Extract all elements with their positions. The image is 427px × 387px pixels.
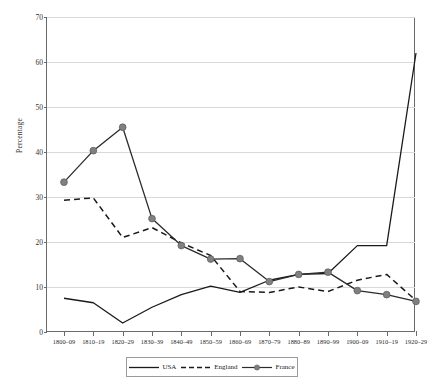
x-axis-tick-label: 1860–69 [229,338,251,345]
x-axis-tick-label: 1830–39 [141,338,163,345]
legend-swatch-england [181,363,211,372]
data-point-france [325,269,332,276]
y-axis-tick-label: 50 [36,103,44,112]
y-axis-tick-label: 30 [36,193,44,202]
x-axis-tick-label: 1900–09 [346,338,368,345]
y-axis-tick-label: 0 [39,328,43,337]
x-axis-tick-label: 1880–89 [287,338,309,345]
legend-item-france[interactable]: France [242,363,294,372]
legend-swatch-france [242,363,272,372]
data-point-france [266,278,273,285]
x-axis-tick-label: 1800–09 [53,338,75,345]
x-axis-tick-label: 1910–19 [375,338,397,345]
y-axis-tick-label: 60 [36,58,44,67]
series-line-england [64,198,416,301]
x-axis-tick-label: 1850–59 [199,338,221,345]
series-line-usa [64,53,416,323]
series-line-france [64,127,416,301]
data-point-france [383,291,390,298]
x-axis-tick-label: 1870–79 [258,338,280,345]
data-series-layer [47,17,416,332]
data-point-france [354,287,361,294]
x-axis-tick-label: 1810–19 [82,338,104,345]
legend-label-england: England [214,363,237,371]
y-axis-tick-label: 10 [36,283,44,292]
x-axis-tick-label: 1840–49 [170,338,192,345]
plot-area: 010203040506070 1800–091810–191820–29183… [46,17,415,332]
y-axis-tick-mark [44,332,47,333]
data-point-france [119,124,126,131]
data-point-france [149,215,156,222]
legend-label-france: France [275,363,294,371]
y-axis-tick-label: 40 [36,148,44,157]
legend-item-usa[interactable]: USA [129,363,176,372]
y-axis-tick-label: 20 [36,238,44,247]
data-point-france [295,271,302,278]
data-point-france [413,298,420,305]
legend-item-england[interactable]: England [181,363,237,372]
data-point-france [90,147,97,154]
x-axis-tick-label: 1820–29 [111,338,133,345]
legend-label-usa: USA [162,363,176,371]
data-point-france [207,256,214,263]
y-axis-tick-label: 70 [36,13,44,22]
x-axis-tick-label: 1920–29 [405,338,427,345]
x-axis-tick-label: 1890–99 [317,338,339,345]
data-point-france [61,179,68,186]
chart-legend: USA England France [126,357,298,377]
x-axis-tick-mark [416,331,417,336]
data-point-france [178,242,185,249]
legend-swatch-usa [129,363,159,372]
y-axis-title: Percentage [15,91,24,181]
data-point-france [237,255,244,262]
